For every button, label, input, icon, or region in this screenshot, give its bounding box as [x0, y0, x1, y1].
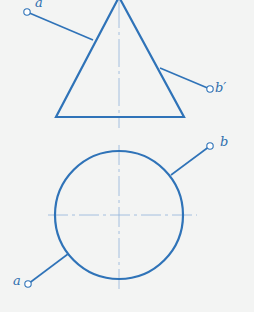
line-a [28, 254, 68, 284]
front-view-triangle [56, 0, 184, 117]
projection-diagram: a′ b′ b a [0, 0, 254, 312]
line-b [171, 146, 210, 175]
point-a-prime [24, 9, 30, 15]
point-a [25, 281, 31, 287]
line-a-prime [27, 12, 93, 40]
label-a-prime: a′ [35, 0, 46, 9]
drawing-canvas [0, 0, 254, 312]
point-b [207, 143, 213, 149]
label-b: b [220, 135, 228, 148]
point-b-prime [207, 86, 213, 92]
label-a: a [13, 274, 21, 287]
label-b-prime: b′ [215, 81, 226, 94]
